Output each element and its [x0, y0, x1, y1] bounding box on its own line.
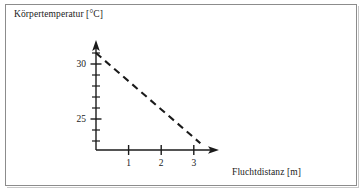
- x-axis: [96, 146, 219, 154]
- x-axis-tick-label: 2: [159, 158, 164, 168]
- x-axis-tick-label: 1: [126, 158, 131, 168]
- trend-line-dashed: [96, 53, 200, 143]
- figure-container: Körpertemperatur [°C] Fluchtdistanz [m] …: [0, 0, 364, 194]
- data-series-layer: [96, 53, 200, 143]
- y-axis-tick-label: 25: [77, 114, 87, 124]
- x-axis-tick-labels: 123: [126, 158, 196, 168]
- x-axis-tick-label: 3: [191, 158, 196, 168]
- plot-area: 2530 123: [0, 0, 364, 194]
- y-axis-tick-label: 30: [77, 59, 87, 69]
- y-axis-tick-labels: 2530: [77, 59, 87, 124]
